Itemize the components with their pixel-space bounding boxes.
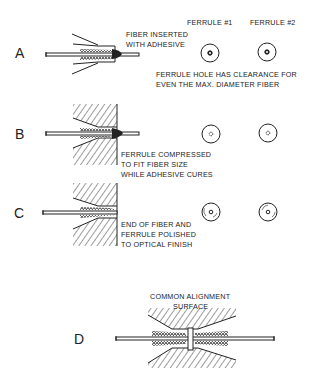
step-b-caption-line-2: TO FIT FIBER SIZE	[121, 160, 188, 170]
step-c-caption-line-2: FERRULE POLISHED	[121, 230, 196, 240]
step-b-caption-line-1: FERRULE COMPRESSED	[121, 150, 211, 160]
step-d-label: D	[74, 331, 84, 347]
ferrule-2-header: FERRULE #2	[250, 18, 296, 28]
step-a-label: A	[15, 45, 24, 61]
step-c-caption-line-1: END OF FIBER AND	[121, 220, 191, 230]
ferrule-1-header: FERRULE #1	[187, 18, 233, 28]
step-d-connector-drawing	[116, 308, 274, 368]
step-a-note-line-1: FERRULE HOLE HAS CLEARANCE FOR	[156, 70, 297, 80]
end-view-c-1	[202, 203, 220, 221]
end-view-b-1	[202, 125, 220, 143]
diagram-drawing	[0, 0, 321, 376]
step-b-label: B	[15, 126, 24, 142]
step-d-caption-line-2: SURFACE	[173, 302, 208, 312]
step-c-ferrule-drawing	[43, 183, 117, 246]
step-d-caption-line-1: COMMON ALIGNMENT	[150, 292, 230, 302]
end-view-c-2	[259, 203, 277, 221]
end-view-b-2	[259, 124, 277, 142]
step-c-caption-line-3: TO OPTICAL FINISH	[121, 240, 192, 250]
step-b-caption-line-3: WHILE ADHESIVE CURES	[121, 170, 213, 180]
end-view-a-2	[258, 43, 276, 61]
step-c-label: C	[14, 205, 24, 221]
step-a-note-line-2: EVEN THE MAX. DIAMETER FIBER	[156, 80, 279, 90]
ferrule-process-diagram: FERRULE #1 FERRULE #2 A B C D FIBER INSE…	[0, 0, 321, 376]
end-view-a-1	[201, 44, 219, 62]
step-a-caption-line-2: WITH ADHESIVE	[126, 40, 185, 50]
step-a-caption-line-1: FIBER INSERTED	[126, 30, 188, 40]
